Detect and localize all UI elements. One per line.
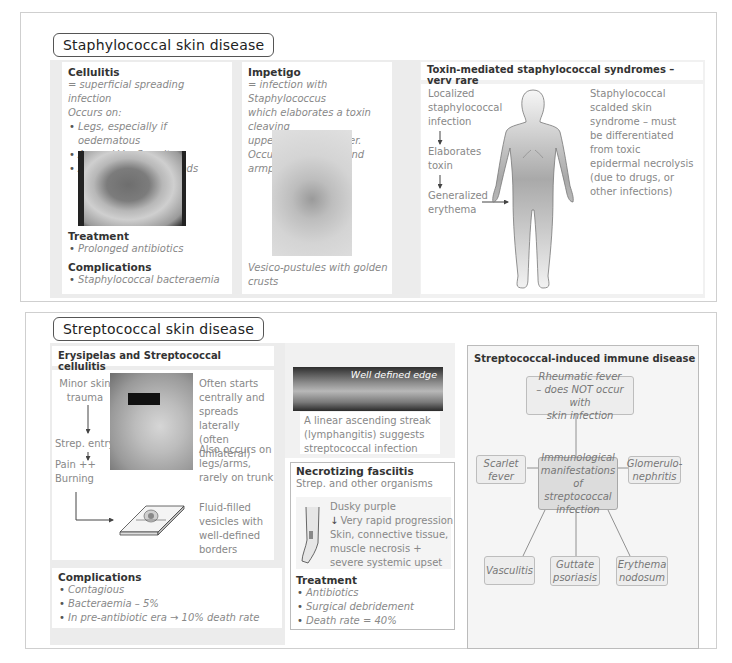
note-line: epidermal necrolysis [590, 157, 702, 171]
cellulitis-treatment-block: Treatment Prolonged antibiotics Complica… [68, 230, 228, 287]
list-item: Antibiotics [296, 586, 446, 600]
erysipelas-face-photo [110, 373, 193, 470]
flow-entry: Strep. entry [55, 437, 114, 451]
node-guttate-psoriasis: Guttate psoriasis [550, 556, 600, 586]
note-line: borders [199, 543, 275, 557]
erysipelas-complications-heading: Complications [58, 571, 276, 583]
note-line: well-defined [199, 529, 275, 543]
flow-text: Burning [55, 472, 96, 486]
impetigo-heading: Impetigo [248, 66, 386, 78]
strep-section-title: Streptococcal skin disease [53, 317, 264, 341]
necrotizing-treatment-heading: Treatment [296, 574, 446, 586]
leg-illustration [300, 505, 324, 565]
note-line: vesicles with [199, 515, 275, 529]
flow-text: Pain ++ [55, 458, 96, 472]
leg-photo: Well defined edge [293, 367, 443, 411]
necrotizing-header: Necrotizing fasciitis Strep. and other o… [296, 465, 446, 491]
node-vasculitis: Vasculitis [484, 556, 535, 585]
node-erythema-nodosum: Erythema nodosum [616, 556, 668, 586]
note-line: Often starts [199, 377, 275, 391]
node-text: psoriasis [553, 571, 597, 584]
cellulitis-treatment-list: Prolonged antibiotics [68, 242, 228, 256]
erysipelas-note-b: Also occurs on legs/arms, rarely on trun… [199, 443, 275, 485]
note-line: from toxic [590, 143, 702, 157]
erysipelas-note-c: Fluid-filled vesicles with well-defined … [199, 501, 275, 557]
node-scarlet-fever: Scarlet fever [476, 455, 526, 484]
node-text: Vasculitis [486, 564, 533, 577]
list-item: Contagious [58, 583, 276, 597]
list-item: Legs, especially if oedematous [68, 120, 226, 148]
cellulitis-heading: Cellulitis [68, 66, 226, 78]
progression-line: ↓ Very rapid progression [330, 514, 455, 528]
necrotizing-subheading: Strep. and other organisms [296, 477, 446, 491]
note-line: Staphylococcal [590, 87, 702, 101]
note-line: (due to drugs, or [590, 171, 702, 185]
caption-line: A linear ascending streak [304, 414, 436, 428]
toxin-heading: Toxin-mediated staphylococcal syndromes … [427, 64, 697, 86]
cellulitis-photo [78, 151, 186, 226]
node-text: Rheumatic fever [527, 370, 633, 383]
progression-line: severe systemic upset [330, 556, 455, 570]
note-line: syndrome – must [590, 115, 702, 129]
node-text: infection [539, 503, 617, 516]
node-text: skin infection [527, 409, 633, 422]
note-line: centrally and [199, 391, 275, 405]
flow-pain: Pain ++ Burning [55, 458, 96, 486]
caption-line: crusts [248, 275, 388, 289]
staph-section-title: Staphylococcal skin disease [53, 33, 274, 57]
node-text: – does NOT occur with [527, 383, 633, 409]
node-text: Glomerulo- [627, 457, 683, 470]
progression-line: Skin, connective tissue, [330, 528, 455, 542]
erysipelas-complications-list: Contagious Bacteraemia – 5% In pre-antib… [58, 583, 276, 625]
note-line: rarely on trunk [199, 471, 275, 485]
list-item: Surgical debridement [296, 600, 446, 614]
caption-line: streptococcal infection [304, 442, 436, 456]
list-item: Prolonged antibiotics [68, 242, 228, 256]
leg-photo-label: Well defined edge [351, 369, 437, 380]
toxin-heading-bar: Toxin-mediated staphylococcal syndromes … [421, 62, 703, 80]
impetigo-caption: Vesico-pustules with golden crusts [248, 261, 388, 289]
note-line: be differentiated [590, 129, 702, 143]
list-item: In pre-antibiotic era → 10% death rate [58, 611, 276, 625]
node-text: nephritis [627, 470, 683, 483]
cellulitis-occurs-label: Occurs on: [68, 106, 226, 120]
node-glomerulonephritis: Glomerulo- nephritis [628, 456, 681, 484]
node-text: Immunological [539, 451, 617, 464]
necrotizing-progression: Dusky purple ↓ Very rapid progression Sk… [330, 500, 455, 570]
flow-text: trauma [55, 391, 115, 405]
node-text: Erythema [618, 558, 667, 571]
redaction-bar [128, 393, 160, 405]
necrotizing-treatment-list: Antibiotics Surgical debridement Death r… [296, 586, 446, 628]
note-line: Also occurs on [199, 443, 275, 457]
list-item: Staphylococcal bacteraemia [68, 273, 228, 287]
note-line: Fluid-filled [199, 501, 275, 515]
node-immunological-manifestations: Immunological manifestations of streptoc… [538, 457, 618, 510]
node-text: nodosum [618, 571, 667, 584]
node-text: streptococcal [539, 490, 617, 503]
erysipelas-complications: Complications Contagious Bacteraemia – 5… [52, 568, 282, 628]
toxin-side-note: Staphylococcal scalded skin syndrome – m… [590, 87, 702, 199]
cellulitis-treatment-heading: Treatment [68, 230, 228, 242]
node-text: manifestations of [539, 464, 617, 490]
impetigo-text: = infection with Staphylococcus [248, 78, 386, 106]
list-item: Death rate = 40% [296, 614, 446, 628]
necrotizing-treatment: Treatment Antibiotics Surgical debrideme… [296, 574, 446, 628]
note-line: other infections) [590, 185, 702, 199]
note-line: spreads laterally [199, 405, 275, 433]
cellulitis-complications-list: Staphylococcal bacteraemia [68, 273, 228, 287]
node-text: Scarlet [484, 457, 519, 470]
progression-line: Dusky purple [330, 500, 455, 514]
note-line: legs/arms, [199, 457, 275, 471]
flow-trauma: Minor skin trauma [55, 377, 115, 405]
progression-line: muscle necrosis + [330, 542, 455, 556]
caption-line: Vesico-pustules with golden [248, 261, 388, 275]
cellulitis-complications-heading: Complications [68, 261, 228, 273]
leg-photo-caption: A linear ascending streak (lymphangitis)… [300, 412, 440, 454]
vesicle-illustration [118, 500, 188, 540]
caption-line: (lymphangitis) suggests [304, 428, 436, 442]
flow-text: Minor skin [55, 377, 115, 391]
progression-text: Very rapid progression [340, 514, 453, 528]
immune-heading: Streptococcal-induced immune disease [474, 353, 695, 364]
erysipelas-heading: Erysipelas and Streptococcal cellulitis [58, 350, 268, 372]
cellulitis-definition: = superficial spreading infection [68, 78, 226, 106]
